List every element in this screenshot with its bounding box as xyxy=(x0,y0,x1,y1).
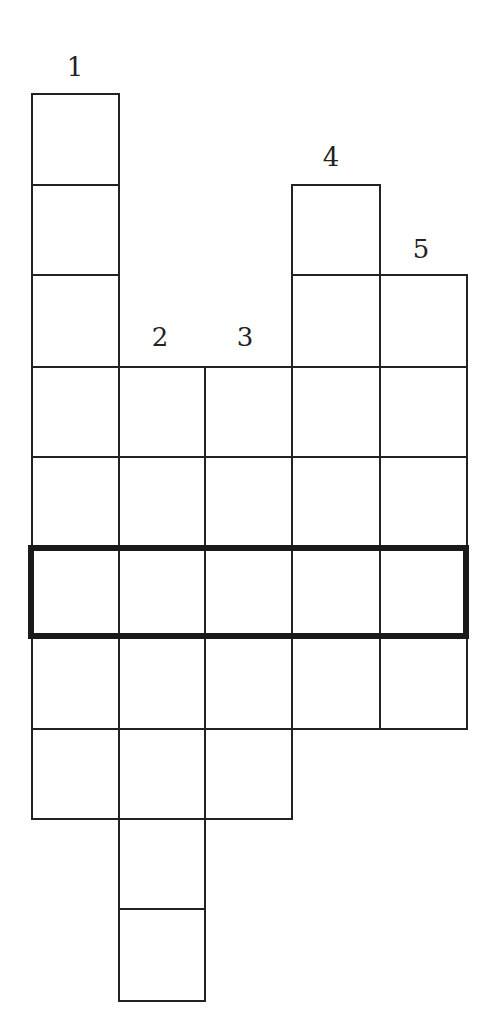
crossword-cell[interactable] xyxy=(31,456,120,549)
crossword-cell[interactable] xyxy=(31,728,120,820)
crossword-cell[interactable] xyxy=(291,456,381,549)
clue-number-label: 2 xyxy=(152,324,169,350)
clue-number-label: 4 xyxy=(323,144,340,170)
crossword-cell[interactable] xyxy=(204,728,293,820)
crossword-cell[interactable] xyxy=(204,637,293,730)
crossword-cell[interactable] xyxy=(291,547,381,639)
crossword-cell[interactable] xyxy=(379,637,468,730)
crossword-cell[interactable] xyxy=(204,456,293,549)
crossword-cell[interactable] xyxy=(291,274,381,368)
crossword-cell[interactable] xyxy=(291,184,381,276)
clue-number-label: 5 xyxy=(413,236,430,262)
crossword-cell[interactable] xyxy=(118,547,206,639)
crossword-cell[interactable] xyxy=(379,274,468,368)
crossword-cell[interactable] xyxy=(204,366,293,458)
crossword-cell[interactable] xyxy=(118,366,206,458)
clue-number-label: 1 xyxy=(67,54,84,80)
crossword-cell[interactable] xyxy=(379,366,468,458)
crossword-cell[interactable] xyxy=(118,456,206,549)
crossword-cell[interactable] xyxy=(379,456,468,549)
crossword-cell[interactable] xyxy=(31,637,120,730)
crossword-cell[interactable] xyxy=(31,547,120,639)
crossword-cell[interactable] xyxy=(31,274,120,368)
crossword-cell[interactable] xyxy=(291,637,381,730)
clue-number-label: 3 xyxy=(237,324,254,350)
crossword-cell[interactable] xyxy=(118,728,206,820)
crossword-cell[interactable] xyxy=(204,547,293,639)
crossword-cell[interactable] xyxy=(118,637,206,730)
crossword-cell[interactable] xyxy=(31,366,120,458)
crossword-cell[interactable] xyxy=(31,93,120,186)
crossword-cell[interactable] xyxy=(31,184,120,276)
crossword-cell[interactable] xyxy=(291,366,381,458)
crossword-cell[interactable] xyxy=(118,908,206,1002)
crossword-cell[interactable] xyxy=(379,547,468,639)
crossword-cell[interactable] xyxy=(118,818,206,910)
